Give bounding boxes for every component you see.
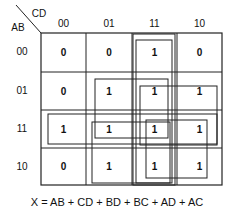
- row-header-10: 10: [8, 162, 36, 172]
- kmap-cell-r01-c10: 1: [177, 72, 222, 110]
- col-variable-label: CD: [29, 9, 49, 19]
- kmap-cell-r11-c11: 1: [132, 110, 177, 148]
- kmap-cell-r01-c11: 1: [132, 72, 177, 110]
- kmap-cell-r10-c10: 1: [177, 148, 222, 185]
- kmap-cell-r01-c01: 1: [86, 72, 132, 110]
- kmap-cell-r00-c11: 1: [132, 33, 177, 72]
- kmap-cell-r00-c10: 0: [177, 33, 222, 72]
- boolean-equation: X = AB + CD + BD + BC + AD + AC: [0, 196, 234, 208]
- row-header-01: 01: [8, 86, 36, 96]
- col-header-11: 11: [132, 19, 177, 29]
- kmap-cell-r00-c01: 0: [86, 33, 132, 72]
- kmap-cell-r11-c00: 1: [41, 110, 86, 148]
- kmap-cell-r10-c11: 1: [132, 148, 177, 185]
- row-variable-label: AB: [8, 23, 28, 33]
- kmap-cell-r01-c00: 0: [41, 72, 86, 110]
- kmap-cell-r10-c00: 0: [41, 148, 86, 185]
- kmap-cell-r11-c10: 1: [177, 110, 222, 148]
- col-header-01: 01: [86, 19, 132, 29]
- kmap-cell-r10-c01: 1: [86, 148, 132, 185]
- row-header-11: 11: [8, 124, 36, 134]
- col-header-00: 00: [41, 19, 86, 29]
- col-header-10: 10: [177, 19, 222, 29]
- row-header-00: 00: [8, 47, 36, 57]
- kmap-cell-r00-c00: 0: [41, 33, 86, 72]
- kmap-cell-r11-c01: 1: [86, 110, 132, 148]
